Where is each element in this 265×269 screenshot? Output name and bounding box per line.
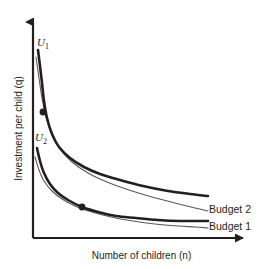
tangency-point-u2-marker: [79, 204, 86, 211]
curve-label-u2-base: U: [35, 131, 43, 143]
y-axis-label: Investment per child (q): [13, 54, 24, 204]
x-axis-label: Number of children (n): [33, 250, 250, 261]
curve-u1-indifference: [38, 50, 208, 196]
curve-label-u2-subscript: 2: [43, 137, 47, 146]
curve-u2-indifference: [37, 148, 208, 221]
curve-label-u1-base: U: [37, 36, 45, 48]
figure-container: Investment per child (q) Number of child…: [0, 0, 265, 269]
curve-label-budget-2: Budget 2: [209, 203, 251, 215]
curve-label-budget-1: Budget 1: [209, 220, 251, 232]
curve-budget-2: [36, 57, 208, 211]
tangency-point-u1-marker: [40, 109, 47, 116]
curve-label-u1: U1: [37, 36, 49, 51]
curve-label-u2: U2: [35, 131, 47, 146]
curve-label-u1-subscript: 1: [45, 42, 49, 51]
